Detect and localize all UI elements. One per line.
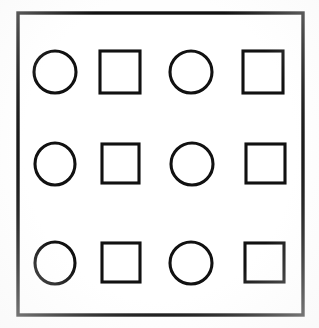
- outer-frame-rect: [18, 13, 303, 315]
- outer-frame-group: [18, 13, 303, 315]
- shape-grid-diagram: [0, 0, 319, 328]
- diagram-canvas: [0, 0, 319, 328]
